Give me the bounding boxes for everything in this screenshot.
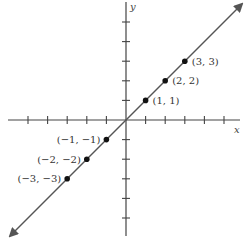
y-axis-label: y <box>129 1 136 12</box>
point-label: (1, 1) <box>153 95 180 106</box>
point-label: (−1, −1) <box>57 134 101 145</box>
data-point <box>182 58 188 64</box>
data-point <box>162 78 168 84</box>
coordinate-plane: (1, 1)(2, 2)(3, 3)(−1, −1)(−2, −2)(−3, −… <box>0 0 245 246</box>
point-label: (−3, −3) <box>18 173 62 184</box>
point-label: (−2, −2) <box>37 154 81 165</box>
data-point <box>143 98 149 104</box>
data-point <box>64 176 70 182</box>
data-point <box>84 156 90 162</box>
x-axis-label: x <box>234 124 240 135</box>
point-label: (3, 3) <box>192 56 219 67</box>
point-label: (2, 2) <box>172 75 199 86</box>
data-point <box>104 137 110 143</box>
